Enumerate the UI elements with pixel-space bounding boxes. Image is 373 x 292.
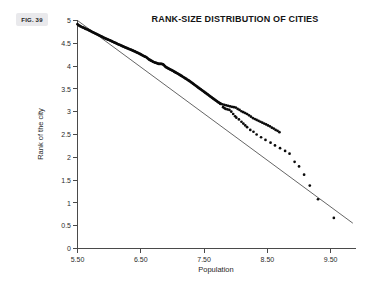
data-point	[235, 116, 238, 119]
y-tick-label: 5	[67, 17, 71, 24]
data-point	[278, 131, 281, 134]
x-tick-label: 9.50	[324, 256, 338, 263]
data-point	[308, 184, 311, 187]
y-axis-ticks: 00.511.522.533.544.55	[61, 17, 77, 252]
y-tick-label: 2.5	[61, 131, 71, 138]
data-points-group	[76, 23, 335, 219]
y-tick-label: 1	[67, 200, 71, 207]
y-tick-label: 4.5	[61, 40, 71, 47]
x-axis-title: Population	[198, 265, 233, 274]
data-point	[332, 217, 335, 220]
data-point	[298, 165, 301, 168]
data-point	[219, 103, 222, 106]
x-axis-ticks: 5.506.507.508.509.50	[71, 249, 338, 264]
data-point	[293, 161, 296, 164]
x-tick-label: 8.50	[261, 256, 275, 263]
y-tick-label: 0	[67, 245, 71, 252]
data-point	[288, 152, 291, 155]
scatter-plot: 00.511.522.533.544.55 5.506.507.508.509.…	[0, 0, 373, 292]
data-point	[303, 173, 306, 176]
data-point	[274, 144, 277, 147]
axes-group	[77, 20, 356, 249]
regression-fit-line	[78, 21, 353, 224]
y-tick-label: 3	[67, 108, 71, 115]
data-point	[260, 136, 263, 139]
y-axis-title: Rank of the city	[36, 108, 45, 160]
data-point	[252, 130, 255, 133]
data-point	[230, 110, 233, 113]
data-point	[264, 139, 267, 142]
data-point	[232, 113, 235, 116]
y-tick-label: 3.5	[61, 86, 71, 93]
data-point	[284, 150, 287, 153]
x-tick-label: 5.50	[71, 256, 85, 263]
data-point	[246, 126, 249, 129]
fit-line-segment	[78, 21, 353, 224]
figure-root: FIG. 39 RANK-SIZE DISTRIBUTION OF CITIES…	[0, 0, 373, 292]
data-point	[238, 118, 241, 121]
y-tick-label: 2	[67, 154, 71, 161]
data-point	[255, 133, 258, 136]
x-tick-label: 7.50	[197, 256, 211, 263]
data-point	[317, 198, 320, 201]
data-point	[249, 129, 252, 132]
y-tick-label: 1.5	[61, 177, 71, 184]
y-tick-label: 4	[67, 63, 71, 70]
x-tick-label: 6.50	[134, 256, 148, 263]
data-point	[269, 141, 272, 144]
y-tick-label: 0.5	[61, 222, 71, 229]
data-point	[279, 147, 282, 150]
